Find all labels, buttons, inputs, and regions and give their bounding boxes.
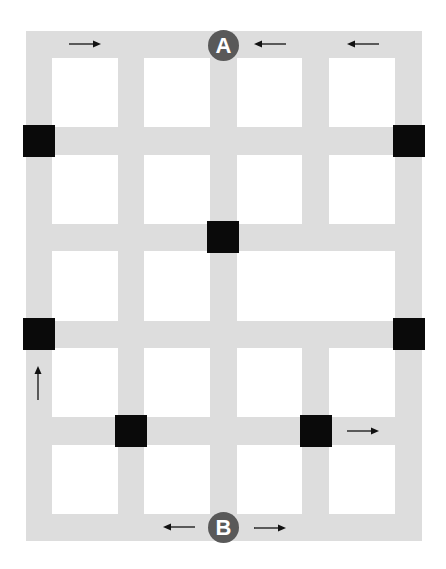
arrow-right-icon: [346, 426, 380, 436]
black-square: [23, 318, 55, 350]
city-block: [329, 348, 395, 417]
black-square: [393, 318, 425, 350]
city-block: [237, 58, 302, 127]
city-block: [329, 155, 395, 224]
city-block: [237, 445, 302, 514]
city-block: [144, 251, 210, 321]
city-block: [52, 58, 118, 127]
city-block: [144, 58, 210, 127]
black-square: [393, 125, 425, 157]
arrow-left-icon: [346, 39, 380, 49]
black-square: [300, 415, 332, 447]
city-block: [144, 348, 210, 417]
city-block: [52, 155, 118, 224]
city-block: [329, 445, 395, 514]
arrow-left-icon: [253, 39, 287, 49]
city-block: [52, 445, 118, 514]
black-square: [23, 125, 55, 157]
marker-b: B: [208, 512, 239, 543]
city-block: [144, 155, 210, 224]
black-square: [207, 221, 239, 253]
marker-a: A: [208, 30, 239, 61]
city-block: [52, 251, 118, 321]
black-square: [115, 415, 147, 447]
arrow-right-icon: [68, 39, 102, 49]
arrow-left-icon: [162, 522, 196, 532]
city-block: [237, 348, 302, 417]
city-block-wide: [237, 251, 395, 321]
arrow-right-icon: [253, 523, 287, 533]
city-block: [52, 348, 118, 417]
city-block: [144, 445, 210, 514]
city-block: [329, 58, 395, 127]
arrow-up-icon: [33, 365, 43, 401]
city-block: [237, 155, 302, 224]
